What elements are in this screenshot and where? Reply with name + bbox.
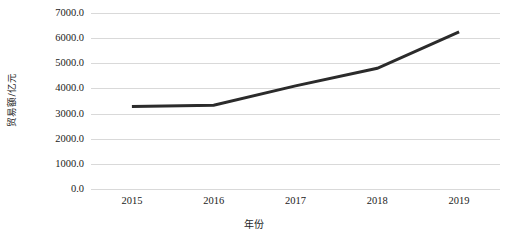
y-tick-label: 6000.0 [55,33,84,44]
line-chart-figure: 贸易额/亿元 0.01000.02000.03000.04000.05000.0… [0,0,507,246]
x-tick-label: 2018 [367,196,388,207]
plot-area [91,13,500,189]
x-tick-label: 2019 [449,196,470,207]
gridline [91,189,500,190]
y-axis-title-text: 贸易额/亿元 [4,73,18,127]
y-tick-label: 7000.0 [55,8,84,19]
y-axis-tick-labels: 0.01000.02000.03000.04000.05000.06000.07… [22,0,90,200]
x-tick-label: 2016 [203,196,224,207]
y-tick-label: 4000.0 [55,83,84,94]
y-tick-label: 1000.0 [55,159,84,170]
y-tick-label: 5000.0 [55,58,84,69]
x-axis-title: 年份 [0,216,507,231]
series-polyline [132,32,459,107]
y-tick-label: 0.0 [71,184,84,195]
y-axis-title: 贸易额/亿元 [0,0,22,200]
x-axis-tick-labels: 20152016201720182019 [91,196,500,214]
y-tick-label: 3000.0 [55,108,84,119]
y-tick-label: 2000.0 [55,133,84,144]
x-tick-label: 2017 [285,196,306,207]
x-tick-label: 2015 [121,196,142,207]
series-line-trade-volume [91,13,500,189]
